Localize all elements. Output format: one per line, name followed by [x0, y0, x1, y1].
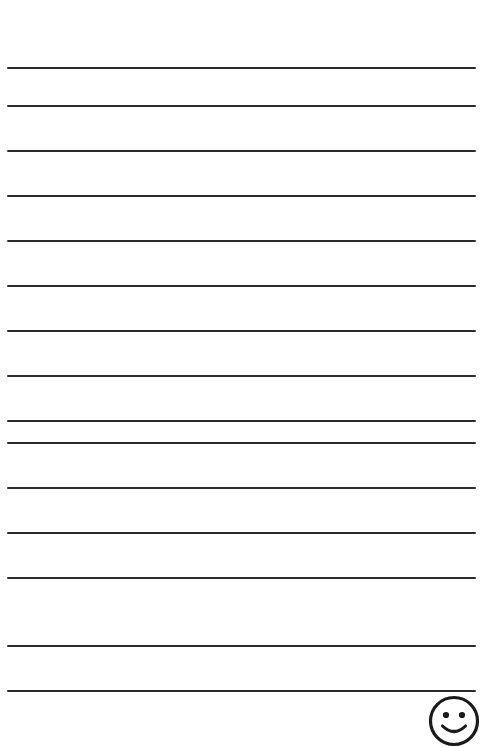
rule-line [7, 330, 476, 332]
smiley-label: Smiley face stamp [0, 0, 1, 1]
rule-line [7, 240, 476, 242]
rule-line [7, 285, 476, 287]
rule-line [7, 577, 476, 579]
rule-line [7, 67, 476, 69]
rule-line [7, 487, 476, 489]
smiley-face-icon [428, 695, 484, 747]
rule-line [7, 690, 476, 692]
rule-line [7, 532, 476, 534]
notepad-page: Lined Notepad Page Smiley face stamp [0, 0, 499, 747]
rule-line [7, 442, 476, 444]
page-title: Lined Notepad Page [0, 0, 1, 1]
rule-line [7, 105, 476, 107]
rule-line [7, 645, 476, 647]
rule-line [7, 150, 476, 152]
rule-line [7, 375, 476, 377]
rule-line [7, 195, 476, 197]
rule-line [7, 420, 476, 422]
